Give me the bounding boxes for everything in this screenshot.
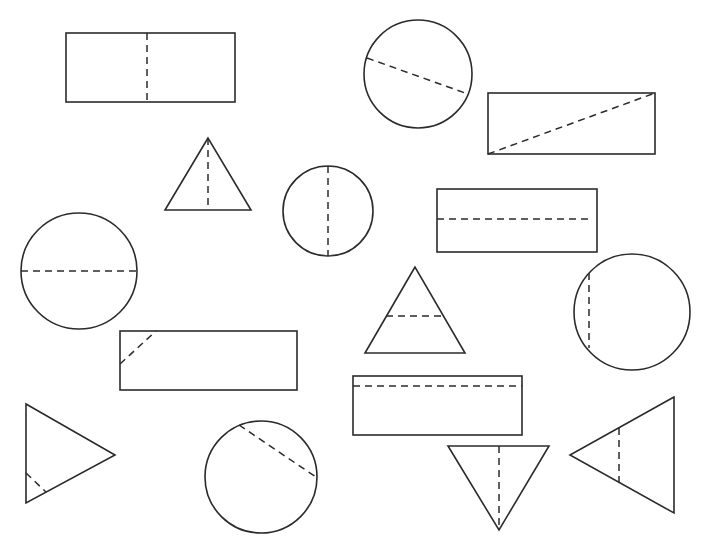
- circle-outline: [205, 421, 317, 533]
- dashed-line-diagonal: [488, 93, 655, 154]
- triangle-shape: [365, 267, 465, 353]
- rectangle-outline: [353, 376, 522, 435]
- rectangle-outline: [66, 33, 235, 102]
- rectangle-outline: [437, 189, 597, 252]
- rectangle-shape: [488, 93, 655, 154]
- circle-shape: [364, 20, 472, 128]
- triangle-outline: [26, 404, 115, 503]
- dashed-line-diameter-diagonal: [367, 58, 468, 94]
- triangle-shape: [570, 397, 674, 513]
- circle-shape: [21, 213, 137, 329]
- triangle-shape: [165, 138, 251, 210]
- triangle-shape: [26, 404, 115, 503]
- dashed-line-corner-diagonal: [120, 331, 156, 364]
- rectangle-shape: [66, 33, 235, 102]
- circle-shape: [283, 166, 373, 256]
- circle-shape: [205, 421, 317, 533]
- dashed-line-chord-diagonal: [239, 425, 316, 477]
- circle-shape: [574, 254, 690, 370]
- shapes-canvas: [0, 0, 710, 551]
- triangle-outline: [570, 397, 674, 513]
- rectangle-outline: [120, 331, 297, 390]
- circle-outline: [574, 254, 690, 370]
- rectangle-shape: [437, 189, 597, 252]
- triangle-shape: [448, 446, 549, 530]
- rectangle-shape: [120, 331, 297, 390]
- triangle-outline: [365, 267, 465, 353]
- rectangle-shape: [353, 376, 522, 435]
- dashed-line-corner-segment: [26, 473, 46, 492]
- circle-outline: [364, 20, 472, 128]
